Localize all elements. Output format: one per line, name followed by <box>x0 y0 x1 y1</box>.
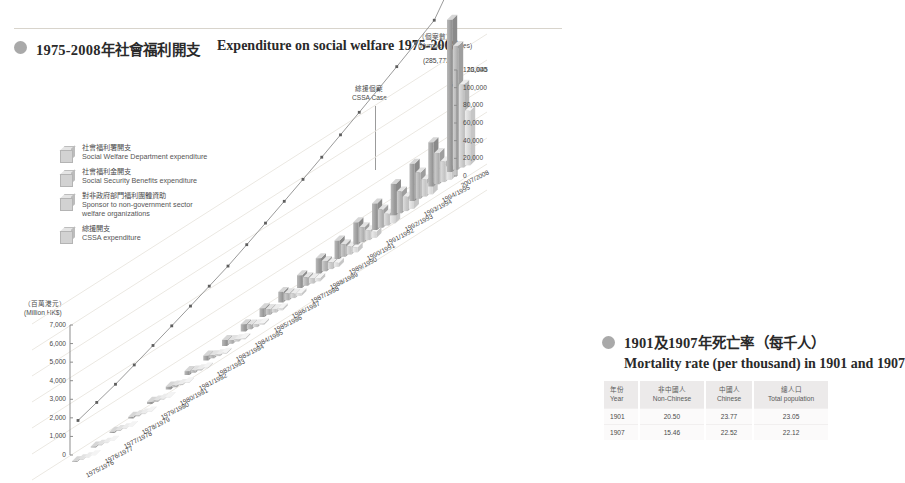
bar-1993-1994-s2 <box>422 174 432 196</box>
cssa-annotation-leader-line <box>375 106 376 170</box>
section1-header: 1975-2008年社會福利開支 Expenditure on social w… <box>14 38 458 59</box>
legend-item: 社會福利金開支 Social Security Benefits expendi… <box>60 167 207 185</box>
bar-1982-1983-s0 <box>203 351 213 361</box>
table-col-chinese: 中國人 Chinese <box>705 381 753 409</box>
bar-1989-1990-s0 <box>335 236 345 259</box>
cssa-case-marker <box>320 156 323 159</box>
cube-swatch-icon <box>60 170 75 185</box>
bar-1993-1994-s0 <box>410 159 420 201</box>
cssa-case-marker <box>264 222 267 225</box>
bar-1992-1993-s2 <box>403 192 413 211</box>
bar-1994-1995-s3 <box>446 162 456 180</box>
bar-1985-1986-s3 <box>278 303 288 310</box>
col-header-cn: 中國人 <box>712 386 746 395</box>
y2-tick-label: 20,000 <box>463 154 483 161</box>
legend-label-en: CSSA expenditure <box>82 233 141 242</box>
cssa-case-marker <box>339 133 342 136</box>
bar-1982-1983-s2 <box>215 349 225 356</box>
bar-1988-1989-s0 <box>316 253 326 273</box>
right-axis-caption-en: (Number of cases) <box>418 42 472 49</box>
bar-1982-1983-s3 <box>221 348 231 354</box>
y2-tick-label: 100,000 <box>463 84 487 91</box>
legend-label-cn: 社會福利署開支 <box>82 143 207 152</box>
bar-1994-1995-s0 <box>428 137 438 186</box>
bar-1983-1984-s0 <box>222 335 232 346</box>
y-tick-label: 7,000 <box>30 321 66 328</box>
table-row: 1901 20.50 23.77 23.05 <box>604 409 829 425</box>
y-tick-label: 3,000 <box>30 395 66 402</box>
bar-1980-1981-s2 <box>178 379 188 385</box>
table-row: 1907 15.46 22.52 22.12 <box>604 425 829 441</box>
legend-item: 綜援開支 CSSA expenditure <box>60 224 207 242</box>
mortality-table: 年份 Year 非中國人 Non-Chinese 中國人 Chinese 總人口… <box>604 381 830 440</box>
bar-1987-1988-s3 <box>315 273 325 281</box>
bar-1978-1979-s0 <box>128 412 138 419</box>
bar-1977-1978-s2 <box>122 423 132 428</box>
cell-total-population: 22.12 <box>753 425 829 441</box>
bar-1976-1977-s3 <box>109 436 119 441</box>
bar-1983-1984-s2 <box>234 334 244 341</box>
bar-1984-1985-s0 <box>241 319 251 331</box>
bar-1986-1987-s2 <box>290 289 300 299</box>
legend-label-cn: 對非政府部門福利團體資助 <box>82 191 200 200</box>
cssa-case-marker <box>302 178 305 181</box>
cell-non-chinese: 15.46 <box>639 425 705 441</box>
bar-1984-1985-s1 <box>247 320 257 330</box>
cell-year: 1901 <box>604 409 639 425</box>
bar-1991-1992-s0 <box>372 198 382 230</box>
bar-1989-1990-s3 <box>353 242 363 252</box>
cube-swatch-icon <box>60 194 75 209</box>
col-header-cn: 非中國人 <box>646 386 698 395</box>
col-header-en: Non-Chinese <box>646 395 698 404</box>
section2-header: 1901及1907年死亡率（每千人） Mortality rate (per t… <box>602 333 905 374</box>
y-tick-label: 6,000 <box>30 340 66 347</box>
legend-label-cn: 社會福利金開支 <box>82 167 197 176</box>
bar-1979-1980-s2 <box>159 394 169 400</box>
table-col-year: 年份 Year <box>604 381 639 409</box>
table-header-row: 年份 Year 非中國人 Non-Chinese 中國人 Chinese 總人口… <box>604 381 829 409</box>
bar-1993-1994-s3 <box>428 178 438 194</box>
bar-1975-1976-s2 <box>84 452 94 457</box>
y2-tick-label: 120,000 <box>463 66 487 73</box>
legend-item: 社會福利署開支 Social Welfare Department expend… <box>60 143 207 161</box>
left-axis-caption-en: (Million HK$) <box>24 309 62 316</box>
cssa-case-marker <box>358 111 361 114</box>
bar-1978-1979-s3 <box>146 407 156 412</box>
bar-1984-1985-s2 <box>253 319 263 327</box>
left-axis-caption-cn: （百萬港元） <box>24 300 66 307</box>
bar-1976-1977-s1 <box>97 440 107 446</box>
bar-1991-1992-s3 <box>390 211 400 224</box>
bar-1992-1993-s1 <box>397 186 407 213</box>
bar-1989-1990-s1 <box>341 239 351 257</box>
y-tick-label: 0 <box>30 451 66 458</box>
bar-1979-1980-s1 <box>153 395 163 401</box>
bar-1981-1982-s1 <box>191 365 201 372</box>
filled-circle-icon <box>14 41 27 54</box>
table-col-non-chinese: 非中國人 Non-Chinese <box>639 381 705 409</box>
cssa-case-marker <box>170 324 173 327</box>
legend-label-en: Sponsor to non-government sector welfare… <box>82 200 200 218</box>
section1-title-cn: 1975-2008年社會福利開支 <box>36 38 200 59</box>
bar-1990-1991-s2 <box>365 225 375 240</box>
bar-1979-1980-s3 <box>165 392 175 397</box>
legend-label-en: Social Welfare Department expenditure <box>82 152 207 161</box>
right-axis-caption-cn: （個案數） <box>418 33 453 40</box>
col-header-cn: 年份 <box>610 386 632 395</box>
y-tick-label: 2,000 <box>30 414 66 421</box>
bar-1975-1976-s1 <box>78 454 88 459</box>
cssa-case-marker <box>133 364 136 367</box>
bar-1990-1991-s3 <box>371 227 381 238</box>
chart-legend: 社會福利署開支 Social Welfare Department expend… <box>60 143 207 248</box>
cell-chinese: 22.52 <box>705 425 753 441</box>
bar-1975-1976-s3 <box>90 450 100 455</box>
cell-non-chinese: 20.50 <box>639 409 705 425</box>
bar-1985-1986-s1 <box>266 304 276 315</box>
cssa-case-marker <box>208 285 211 288</box>
bar-1975-1976-s0 <box>72 456 82 462</box>
bar-1976-1977-s2 <box>103 438 113 443</box>
section2-title-en: Mortality rate (per thousand) in 1901 an… <box>624 354 905 374</box>
cssa-case-marker <box>433 19 436 22</box>
cssa-case-marker <box>152 344 155 347</box>
bar-1990-1991-s1 <box>359 222 369 242</box>
